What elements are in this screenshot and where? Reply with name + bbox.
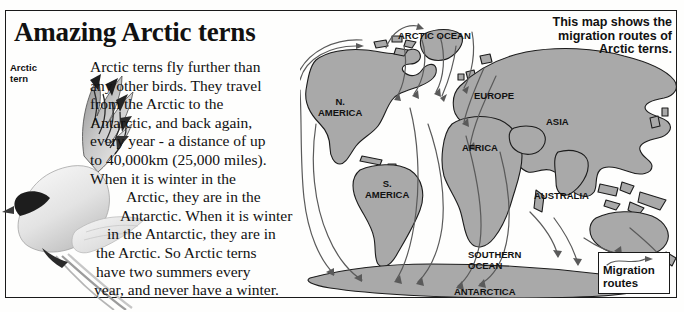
land-iceland <box>480 54 492 64</box>
land-indonesia <box>598 184 618 196</box>
land-japan <box>650 116 660 128</box>
body-line: Antarctic, and back again, <box>90 114 312 133</box>
map-label-south-america: S. AMERICA <box>365 178 409 200</box>
photo-caption-line2: tern <box>10 73 28 84</box>
land-british-isles <box>458 74 464 80</box>
map-label-asia: ASIA <box>546 116 569 127</box>
body-line: Antarctic. When it is winter <box>90 207 312 226</box>
photo-caption-line1: Arctic <box>10 62 37 73</box>
body-line: in the Antarctic, they are in <box>90 225 312 244</box>
newspaper-clipping: Amazing Arctic terns <box>0 0 684 312</box>
body-line: have two summers every <box>90 263 312 282</box>
map-caption-line3: Arctic terns. <box>599 42 672 56</box>
map-label-australia: AUSTRALIA <box>534 190 589 201</box>
land-arctic-islands <box>404 40 416 48</box>
map-label-africa: AFRICA <box>462 142 498 153</box>
map-caption-line2: migration routes of <box>558 29 672 43</box>
article-body: Arctic terns fly further than any other … <box>90 58 312 300</box>
legend-text: Migration routes <box>603 264 669 290</box>
body-line: to 40,000km (25,000 miles). <box>90 151 312 170</box>
body-line: Arctic terns fly further than <box>90 58 312 77</box>
map-caption: This map shows the migration routes of A… <box>497 16 672 57</box>
body-line: year, and never have a winter. <box>90 281 312 300</box>
land-indonesia <box>620 182 634 194</box>
body-line: every year - a distance of up <box>90 132 312 151</box>
land-caribbean <box>360 156 382 165</box>
page-title: Amazing Arctic terns <box>14 17 314 47</box>
map-label-antarctica: ANTARCTICA <box>454 286 516 297</box>
body-line: Arctic, they are in the <box>90 188 312 207</box>
body-line: from the Arctic to the <box>90 95 312 114</box>
land-indonesia <box>604 200 620 210</box>
map-label-arctic-ocean: ARCTIC OCEAN <box>398 30 471 41</box>
map-label-southern-ocean: SOUTHERN OCEAN <box>468 249 521 271</box>
legend-line1: Migration <box>603 264 655 276</box>
photo-caption: Arctic tern <box>10 62 62 84</box>
land-australia <box>590 212 668 257</box>
map-caption-line1: This map shows the <box>553 15 672 29</box>
body-line: the Arctic. So Arctic terns <box>90 244 312 263</box>
body-line: When it is winter in the <box>90 170 312 189</box>
map-label-north-america: N. AMERICA <box>318 96 362 118</box>
body-line: any other birds. They travel <box>90 77 312 96</box>
map-legend: Migration routes <box>598 252 670 294</box>
legend-line2: routes <box>603 277 638 289</box>
land-japan <box>662 108 668 116</box>
map-label-europe: EUROPE <box>474 90 514 101</box>
